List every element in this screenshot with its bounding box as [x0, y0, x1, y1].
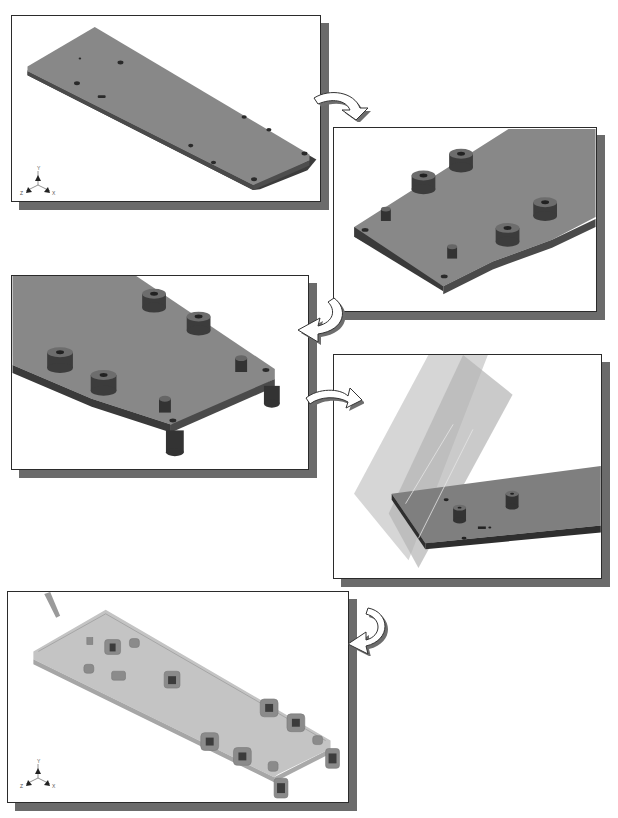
plate-bosses-drawing: [334, 128, 596, 311]
curved-arrow-icon-1-to-2: [310, 86, 374, 122]
curved-arrow-icon-3-to-4: [304, 384, 364, 414]
axis-triad-icon: Y Z X: [18, 756, 58, 792]
panel-2-bosses: Bosses added to plate end (top view): [333, 127, 597, 312]
axis-triad-icon: Y Z X: [18, 163, 58, 199]
svg-text:Y: Y: [37, 165, 41, 171]
plate-drawing: [12, 16, 320, 201]
svg-text:X: X: [52, 783, 56, 789]
svg-text:X: X: [52, 190, 56, 196]
plate-legs-drawing: [12, 276, 308, 469]
panel-5-final-part: Completed part shown transparent: [7, 591, 349, 803]
transparent-part-drawing: [8, 592, 348, 802]
panel-1-base-plate: Base plate with holes Y Z: [11, 15, 321, 202]
panel-4-datum-planes: Datum planes through plate: [333, 354, 602, 579]
panel-3-legs: Bosses and legs added (close-up): [11, 275, 309, 470]
curved-arrow-icon-4-to-5: [344, 604, 396, 656]
coordinate-triad: Y Z X: [18, 756, 58, 792]
curved-arrow-icon-2-to-3: [294, 294, 354, 346]
svg-text:Z: Z: [20, 783, 23, 789]
svg-text:Y: Y: [37, 758, 41, 764]
coordinate-triad: Y Z X: [18, 163, 58, 199]
datum-planes-drawing: [334, 355, 601, 578]
svg-text:Z: Z: [20, 190, 23, 196]
